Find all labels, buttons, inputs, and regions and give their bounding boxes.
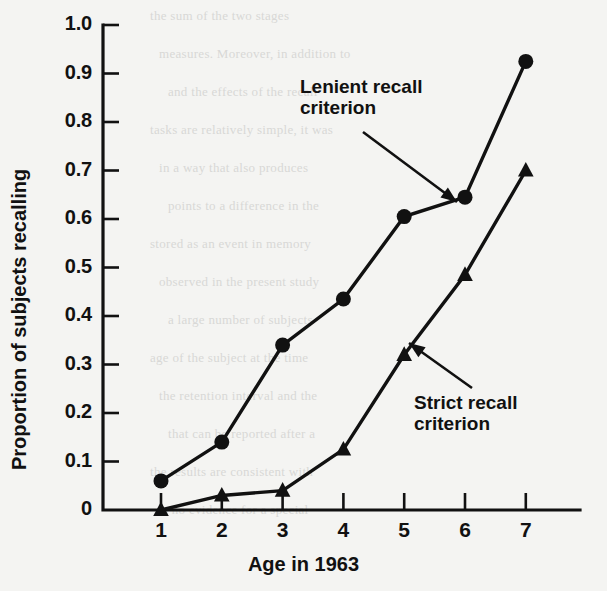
x-axis-tick-label: 4 [323,518,363,542]
x-axis-tick-label: 7 [506,518,546,542]
x-axis-tick-label: 6 [445,518,485,542]
data-point-strict [518,162,534,177]
annotation-strict-recall-criterion: Strict recall criterion [414,392,518,435]
data-point-lenient [214,435,229,450]
y-axis-tick-label: 0.9 [14,61,92,84]
x-axis-tick-label: 5 [384,518,424,542]
y-axis-tick-label: 0 [14,497,92,520]
figure-canvas: the sum of the two stagesmeasures. Moreo… [0,0,607,591]
x-axis-title: Age in 1963 [0,553,607,576]
annotation-lenient-recall-criterion: Lenient recall criterion [300,76,423,119]
x-axis-tick-label: 2 [202,518,242,542]
data-point-lenient [458,190,473,205]
data-point-lenient [154,473,169,488]
annotation-arrow-head-0 [440,187,457,202]
x-axis-tick-label: 3 [263,518,303,542]
y-axis-title: Proportion of subjects recalling [8,169,31,470]
y-axis-tick-label: 1.0 [14,12,92,35]
x-axis-tick-label: 1 [141,518,181,542]
y-axis-tick-label: 0.8 [14,109,92,132]
series-line-strict [161,171,526,511]
data-point-lenient [336,292,351,307]
data-point-lenient [275,338,290,353]
data-point-lenient [518,54,533,69]
data-point-lenient [397,209,412,224]
annotation-arrow-head-1 [409,343,426,357]
annotation-arrow-line-0 [363,132,457,202]
